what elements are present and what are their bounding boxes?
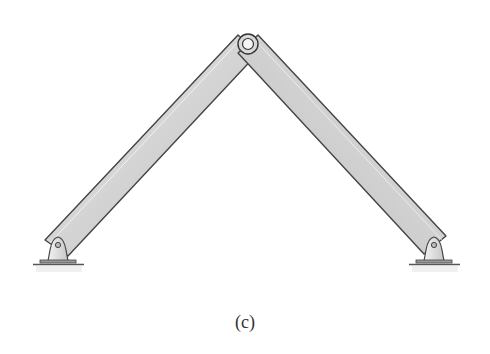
right-beam <box>238 35 446 254</box>
apex-pin-joint <box>238 34 258 54</box>
left-beam <box>45 35 258 256</box>
truss-diagram <box>0 0 490 354</box>
figure-caption: (c) <box>0 312 490 333</box>
